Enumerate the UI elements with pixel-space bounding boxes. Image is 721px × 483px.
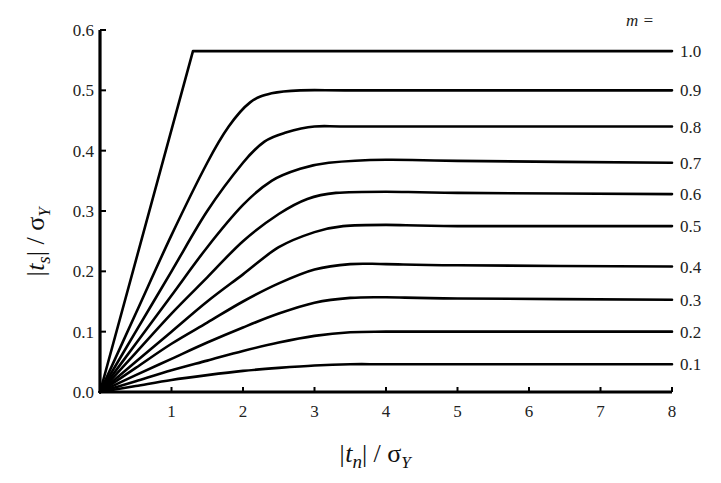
y-tick-label: 0.1 [73, 323, 94, 342]
series-labels: 1.00.90.80.70.60.50.40.30.20.1 [680, 42, 702, 374]
series-label-m-0.9: 0.9 [680, 81, 701, 100]
x-tick-label: 8 [668, 402, 677, 421]
y-tick-label: 0.3 [73, 202, 94, 221]
x-tick-label: 5 [453, 402, 462, 421]
series-label-m-0.6: 0.6 [680, 185, 701, 204]
x-tick-label: 1 [167, 402, 176, 421]
series-label-m-1.0: 1.0 [680, 42, 701, 61]
y-tick-label: 0.4 [73, 142, 95, 161]
plot-curves [100, 51, 672, 392]
series-label-m-0.5: 0.5 [680, 217, 701, 236]
series-label-m-0.2: 0.2 [680, 323, 701, 342]
x-tick-label: 2 [239, 402, 248, 421]
y-tick-label: 0.6 [73, 21, 94, 40]
series-label-m-0.8: 0.8 [680, 118, 701, 137]
curve-m-0.6 [100, 192, 672, 392]
y-axis-title: |ts| / σY [21, 206, 54, 278]
x-axis-title: |tn| / σY [338, 439, 412, 472]
y-tick-label: 0.2 [73, 262, 94, 281]
curve-m-0.9 [100, 90, 672, 392]
curve-m-1.0 [100, 51, 672, 392]
series-label-m-0.1: 0.1 [680, 355, 701, 374]
series-label-m-0.3: 0.3 [680, 291, 701, 310]
x-tick-label: 4 [382, 402, 391, 421]
legend-title: m = [626, 11, 654, 30]
series-label-m-0.4: 0.4 [680, 258, 702, 277]
chart: 0.00.10.20.30.40.50.6 12345678 1.00.90.8… [0, 0, 721, 483]
series-label-m-0.7: 0.7 [680, 154, 702, 173]
x-tick-label: 3 [310, 402, 319, 421]
x-tick-label: 6 [525, 402, 534, 421]
x-tick-label: 7 [596, 402, 605, 421]
curve-m-0.2 [100, 332, 672, 392]
curve-m-0.4 [100, 264, 672, 392]
y-tick-label: 0.5 [73, 81, 94, 100]
y-tick-label: 0.0 [73, 383, 94, 402]
